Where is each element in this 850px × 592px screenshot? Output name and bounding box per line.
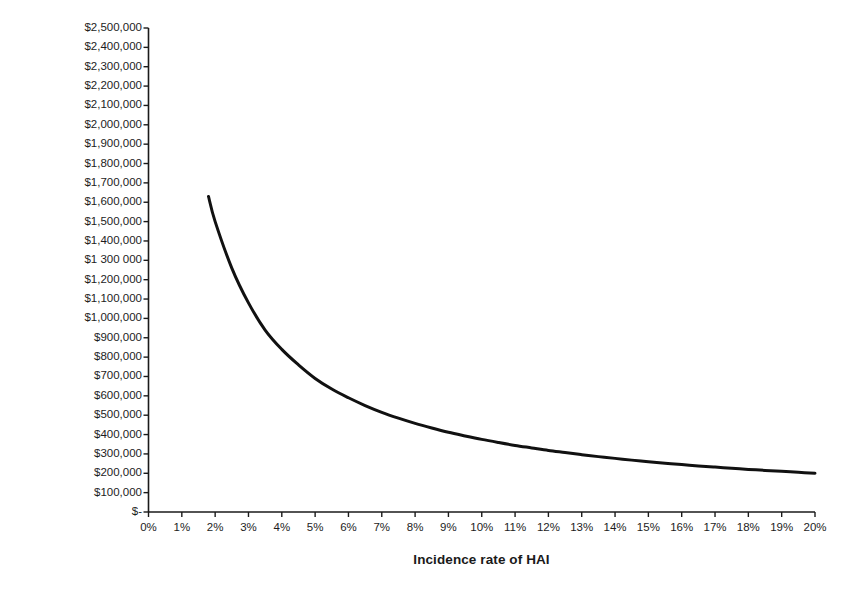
data-series-line [208, 196, 815, 473]
x-axis-ticks [149, 512, 816, 517]
plot-area [0, 0, 850, 592]
chart-figure: Expenditures on infection control $2,500… [0, 0, 850, 592]
